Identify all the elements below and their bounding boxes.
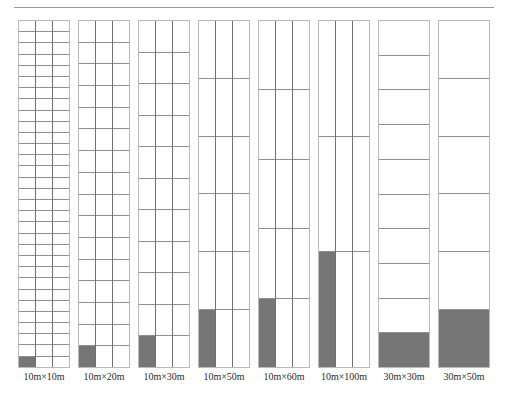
bar-frame [258, 20, 310, 368]
grid-rows [379, 21, 429, 367]
bar-column [318, 20, 370, 368]
grid-row-cell [79, 238, 129, 260]
grid-row-cell [79, 281, 129, 303]
grid-row-cell [79, 346, 129, 367]
grid-row-cell [379, 229, 429, 264]
grid-rows [139, 21, 189, 367]
grid-row-cell [379, 21, 429, 56]
x-tick-label: 10m×60m [254, 370, 314, 384]
bar-frame [378, 20, 430, 368]
grid-row-cell [259, 21, 309, 90]
grid-row-cell [439, 194, 489, 252]
grid-row-cell [19, 211, 69, 222]
grid-row-cell [199, 137, 249, 195]
grid-row-cell [139, 147, 189, 179]
grid-row-cell [259, 229, 309, 298]
grid-rows [199, 21, 249, 367]
grid-row-cell [379, 299, 429, 334]
grid-row-cell [199, 194, 249, 252]
grid-row-cell [19, 55, 69, 66]
bar-column [78, 20, 130, 368]
grid-row-cell [19, 234, 69, 245]
grid-row-cell [19, 166, 69, 177]
grid-row-cell [259, 90, 309, 159]
grid-row-cell [379, 125, 429, 160]
grid-row-cell [19, 77, 69, 88]
grid-row-cell [79, 86, 129, 108]
x-tick-label: 10m×20m [74, 370, 134, 384]
grid-rows [259, 21, 309, 367]
grid-row-cell [139, 336, 189, 367]
grid-row-cell [19, 122, 69, 133]
grid-rows [79, 21, 129, 367]
grid-row-cell [379, 264, 429, 299]
bar-column [198, 20, 250, 368]
grid-row-cell [19, 222, 69, 233]
grid-row-cell [319, 252, 369, 367]
grid-row-cell [19, 323, 69, 334]
bar-chart-plot-area [0, 20, 508, 368]
grid-row-cell [439, 137, 489, 195]
grid-row-cell [19, 99, 69, 110]
grid-row-cell [19, 278, 69, 289]
x-tick-label: 10m×50m [194, 370, 254, 384]
grid-row-cell [79, 325, 129, 347]
grid-row-cell [79, 43, 129, 65]
grid-row-cell [19, 301, 69, 312]
grid-row-cell [139, 242, 189, 274]
x-tick-label: 30m×50m [434, 370, 494, 384]
grid-row-cell [19, 200, 69, 211]
grid-row-cell [79, 173, 129, 195]
grid-row-cell [319, 21, 369, 137]
grid-row-cell [19, 189, 69, 200]
grid-row-cell [199, 252, 249, 310]
grid-rows [439, 21, 489, 367]
figure-caption [0, 387, 508, 398]
grid-row-cell [139, 305, 189, 337]
grid-row-cell [139, 273, 189, 305]
grid-row-cell [19, 312, 69, 323]
x-axis-tick-labels: 10m×10m10m×20m10m×30m10m×50m10m×60m10m×1… [0, 370, 508, 384]
grid-row-cell [79, 108, 129, 130]
bar-frame [438, 20, 490, 368]
grid-row-cell [19, 178, 69, 189]
grid-row-cell [139, 210, 189, 242]
bar-frame [78, 20, 130, 368]
grid-row-cell [379, 56, 429, 91]
grid-row-cell [319, 137, 369, 253]
grid-row-cell [379, 90, 429, 125]
grid-row-cell [19, 345, 69, 356]
grid-row-cell [379, 195, 429, 230]
grid-row-cell [79, 216, 129, 238]
grid-row-cell [439, 310, 489, 367]
grid-row-cell [79, 129, 129, 151]
grid-row-cell [139, 53, 189, 85]
grid-row-cell [19, 43, 69, 54]
bar-frame [18, 20, 70, 368]
grid-row-cell [439, 252, 489, 310]
grid-row-cell [19, 245, 69, 256]
grid-row-cell [139, 116, 189, 148]
grid-row-cell [199, 79, 249, 137]
grid-row-cell [19, 267, 69, 278]
grid-row-cell [439, 79, 489, 137]
grid-row-cell [19, 144, 69, 155]
grid-row-cell [19, 21, 69, 32]
grid-row-cell [379, 333, 429, 367]
bar-column [438, 20, 490, 368]
bar-column [138, 20, 190, 368]
grid-row-cell [259, 299, 309, 367]
grid-row-cell [79, 64, 129, 86]
grid-rows [19, 21, 69, 367]
grid-rows [319, 21, 369, 367]
grid-row-cell [259, 160, 309, 229]
figure-root: 10m×10m10m×20m10m×30m10m×50m10m×60m10m×1… [0, 0, 508, 398]
grid-row-cell [19, 290, 69, 301]
bar-frame [198, 20, 250, 368]
grid-row-cell [379, 160, 429, 195]
grid-row-cell [79, 21, 129, 43]
grid-row-cell [139, 179, 189, 211]
grid-row-cell [79, 151, 129, 173]
grid-row-cell [19, 133, 69, 144]
grid-row-cell [19, 111, 69, 122]
